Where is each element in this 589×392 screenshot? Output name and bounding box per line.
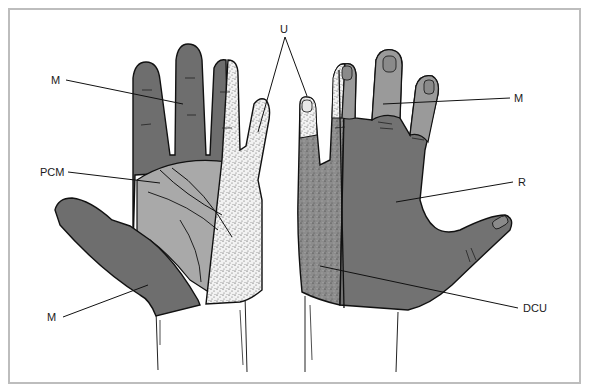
label-palmar-cutaneous-median: PCM: [40, 166, 64, 178]
label-ulnar: U: [280, 23, 288, 35]
label-radial: R: [518, 176, 526, 188]
label-median-palmar-fingers: M: [51, 74, 60, 86]
figure-border: [9, 9, 580, 383]
label-median-dorsal: M: [514, 92, 523, 104]
hand-nerve-diagram: M PCM M U M R DCU: [0, 0, 589, 392]
label-median-thumb: M: [47, 311, 56, 323]
label-dorsal-cutaneous-ulnar: DCU: [523, 302, 547, 314]
